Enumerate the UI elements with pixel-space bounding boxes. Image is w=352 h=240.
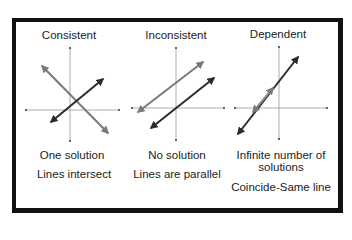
inconsistent-caption-2: Lines are parallel: [133, 168, 221, 180]
consistent-line-gray: [42, 66, 108, 133]
inconsistent-line-dark: [151, 78, 214, 128]
consistent-caption-2: Lines intersect: [37, 168, 111, 180]
dependent-caption-3: Coincide-Same line: [231, 181, 331, 193]
dependent-caption-2: solutions: [258, 161, 303, 173]
consistent-caption-1: One solution: [40, 149, 105, 161]
consistent-axes: [25, 47, 120, 142]
dependent-axes: [234, 46, 328, 140]
consistent-line-dark: [51, 79, 103, 122]
inconsistent-line-gray: [138, 62, 203, 112]
inconsistent-title: Inconsistent: [145, 29, 206, 41]
inconsistent-caption-1: No solution: [148, 149, 206, 161]
consistent-title: Consistent: [42, 29, 96, 41]
inconsistent-axes: [131, 47, 225, 141]
dependent-title: Dependent: [250, 28, 306, 40]
dependent-caption-1: Infinite number of: [237, 149, 326, 161]
